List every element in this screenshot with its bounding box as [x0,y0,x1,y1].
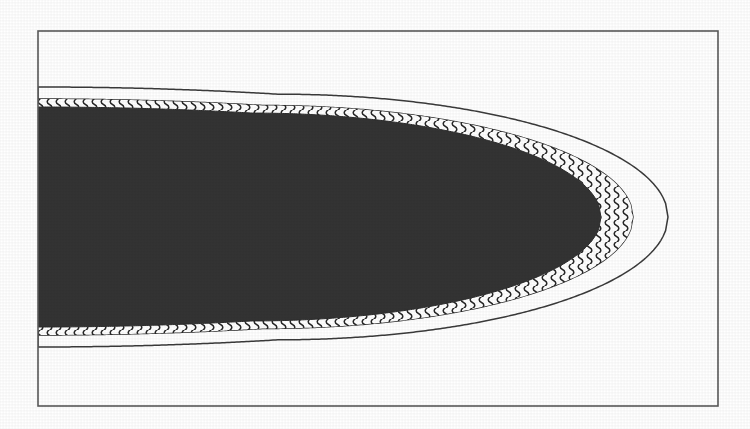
figure-container [0,0,750,429]
figure-svg [0,0,750,429]
